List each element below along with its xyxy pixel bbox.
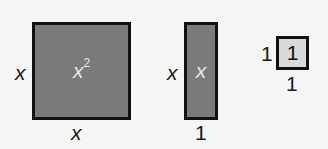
x-squared-tile: x2 — [32, 22, 131, 120]
x-squared-exponent: 2 — [83, 56, 90, 70]
unit-tile-bottom-label: 1 — [286, 73, 298, 94]
x-tile-bottom-label: 1 — [195, 122, 207, 143]
unit-tile-side-label: 1 — [261, 43, 273, 64]
x-squared-label: x2 — [35, 59, 128, 83]
x-tile-side-label: x — [167, 62, 178, 83]
x-squared-base: x — [73, 59, 84, 82]
unit-tile-label: 1 — [279, 41, 306, 65]
unit-tile: 1 — [276, 36, 309, 70]
x-tile: x — [184, 22, 218, 120]
x-squared-side-label: x — [15, 62, 26, 83]
x-squared-bottom-label: x — [71, 122, 82, 143]
x-tile-label: x — [187, 59, 215, 83]
